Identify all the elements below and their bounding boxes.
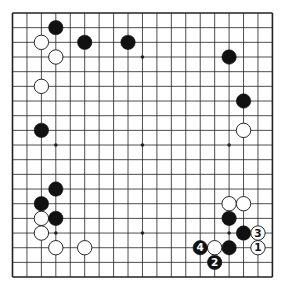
go-board-diagram: 1234 [0, 0, 282, 288]
star-point [141, 55, 145, 59]
black-stone [222, 50, 236, 64]
black-stone [78, 35, 92, 49]
black-stone: 4 [193, 241, 207, 255]
white-stone [49, 241, 63, 255]
black-stone [222, 241, 236, 255]
white-stone [78, 241, 92, 255]
white-stone: 1 [251, 241, 265, 255]
white-stone [207, 241, 221, 255]
star-point [227, 143, 231, 147]
white-stone [34, 35, 48, 49]
black-stone: 2 [207, 255, 221, 269]
black-stone [236, 226, 250, 240]
white-stone: 3 [251, 226, 265, 240]
star-point [141, 231, 145, 235]
black-stone [49, 20, 63, 34]
star-point [227, 231, 231, 235]
white-stone [236, 123, 250, 137]
white-stone [236, 197, 250, 211]
star-point [141, 143, 145, 147]
move-number-label: 4 [197, 241, 204, 253]
white-stone [34, 79, 48, 93]
black-stone [121, 35, 135, 49]
move-number-label: 1 [254, 241, 261, 253]
black-stone [49, 211, 63, 225]
black-stone [49, 182, 63, 196]
go-board: 1234 [0, 0, 282, 288]
white-stone [49, 50, 63, 64]
black-stone [34, 123, 48, 137]
move-number-label: 2 [211, 256, 218, 268]
black-stone [34, 197, 48, 211]
black-stone [236, 94, 250, 108]
star-point [54, 231, 58, 235]
white-stone [34, 226, 48, 240]
white-stone [222, 197, 236, 211]
black-stone [222, 211, 236, 225]
star-point [54, 143, 58, 147]
move-number-label: 3 [254, 227, 261, 239]
white-stone [34, 211, 48, 225]
